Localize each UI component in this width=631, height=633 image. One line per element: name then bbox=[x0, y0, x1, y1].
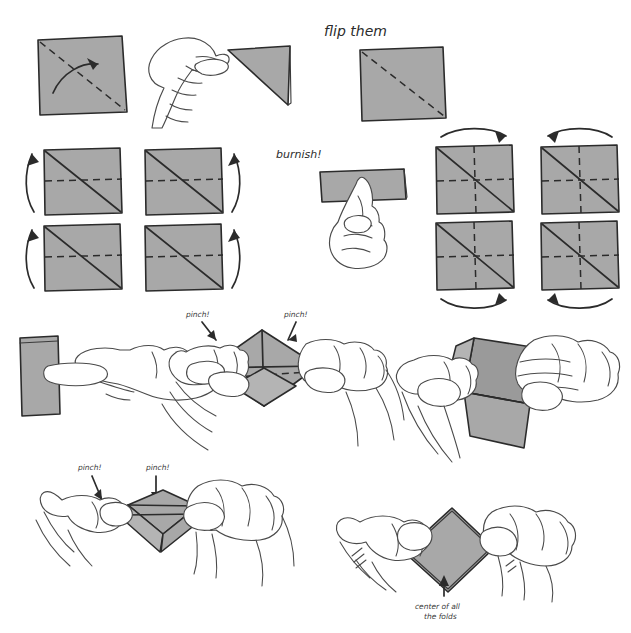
grid-left-square-1 bbox=[44, 148, 122, 215]
grid-left-square-2 bbox=[145, 148, 223, 215]
note-flip-them: flip them bbox=[324, 23, 387, 39]
grid-right-square-1 bbox=[436, 145, 514, 214]
note-center-line-1: center of all bbox=[415, 602, 461, 611]
grid-right-square-4 bbox=[541, 221, 619, 290]
note-pinch-2: pinch! bbox=[283, 310, 307, 319]
note-pinch-3: pinch! bbox=[77, 463, 101, 472]
grid-right-square-3 bbox=[436, 221, 514, 290]
note-center-line-2: the folds bbox=[424, 612, 457, 621]
grid-left-square-3 bbox=[44, 224, 122, 291]
diagram-canvas: flip them bbox=[0, 0, 631, 633]
note-burnish: burnish! bbox=[276, 148, 322, 161]
step-1-diagonal-fold bbox=[38, 36, 127, 115]
step-11-finished: center of all the folds bbox=[336, 506, 575, 621]
note-pinch-4: pinch! bbox=[145, 463, 169, 472]
grid-right-square-2 bbox=[541, 145, 619, 214]
step-8-pinch-open: pinch! pinch! bbox=[162, 310, 404, 450]
origami-instruction-sheet: flip them bbox=[0, 0, 631, 633]
step-4-grid-left bbox=[26, 148, 240, 291]
step-5-burnish-hand bbox=[320, 169, 407, 269]
step-6-grid-right bbox=[436, 129, 619, 309]
step-9-collapse bbox=[396, 336, 619, 462]
grid-left-square-4 bbox=[145, 224, 223, 291]
step-10-pinch-flat: pinch! pinch! bbox=[36, 463, 294, 586]
step-3-flipped-square bbox=[360, 47, 446, 121]
note-pinch-1: pinch! bbox=[185, 310, 209, 319]
step-2-hand-triangle bbox=[149, 38, 291, 128]
